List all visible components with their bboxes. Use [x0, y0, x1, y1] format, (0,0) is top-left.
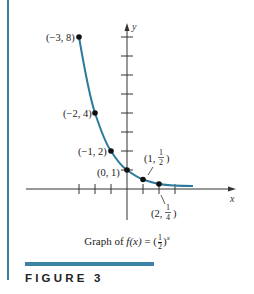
x-axis-label: x — [229, 193, 235, 204]
svg-text:1: 1 — [159, 148, 163, 157]
point-neg1-2 — [108, 148, 114, 154]
svg-text:): ) — [173, 208, 177, 220]
label-point-neg3-8: (−3, 8) — [46, 32, 75, 44]
point-1-half — [140, 177, 146, 183]
caption-equals: = ( — [142, 235, 157, 247]
caption-exponent: x — [167, 234, 170, 242]
point-2-quarter — [156, 181, 162, 187]
x-axis: x — [26, 184, 236, 204]
point-0-1 — [124, 167, 130, 173]
svg-text:(2,: (2, — [151, 208, 162, 220]
x-axis-arrow-icon — [228, 187, 236, 192]
caption-prefix: Graph of — [84, 235, 126, 247]
leader-line — [148, 167, 153, 175]
caption-denominator: 2 — [158, 242, 162, 251]
y-axis-arrow-icon — [125, 23, 130, 31]
caption-numerator: 1 — [158, 233, 162, 242]
label-point-neg2-4: (−2, 4) — [63, 108, 92, 120]
figure-caption: Graph of f(x) = (12)x — [0, 234, 254, 251]
y-axis: y — [121, 21, 137, 220]
label-point-0-1: (0, 1) — [97, 167, 120, 179]
svg-text:2: 2 — [159, 158, 163, 167]
figure-accent-bar — [25, 262, 154, 266]
svg-text:): ) — [166, 153, 170, 165]
caption-fraction: 12 — [158, 234, 162, 251]
svg-text:1: 1 — [166, 203, 170, 212]
label-point-neg1-2: (−1, 2) — [78, 146, 107, 158]
svg-text:4: 4 — [166, 213, 170, 222]
y-axis-label: y — [131, 21, 137, 32]
label-point-2-quarter: (2, 1 4 ) — [151, 195, 177, 222]
svg-text:(1,: (1, — [144, 153, 155, 165]
leader-line — [161, 195, 165, 204]
label-point-1-half: (1, 1 2 ) — [144, 148, 170, 175]
point-neg2-4 — [92, 110, 98, 116]
point-neg3-8 — [76, 34, 82, 40]
figure-number: FIGURE 3 — [25, 272, 104, 284]
caption-function: f(x) — [126, 235, 141, 247]
